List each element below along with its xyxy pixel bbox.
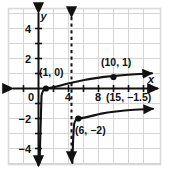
point-1-0[interactable] [43, 85, 49, 91]
point-6-neg2[interactable] [75, 115, 81, 121]
annotation-point-6-neg2: (6, −2) [75, 124, 106, 136]
point-10-1[interactable] [110, 74, 116, 80]
y-tick-label-2: 2 [25, 53, 31, 65]
coordinate-plane-svg: 4 2 0 −2 −4 4 8 y x (1, 0) (10, 1) (15, … [0, 0, 169, 173]
annotation-point-15-neg1-5: (15, −1.5) [106, 91, 151, 103]
y-tick-label-4: 4 [25, 23, 32, 35]
y-axis-label: y [40, 10, 48, 22]
y-tick-label-0: 0 [28, 91, 34, 103]
x-tick-label-4: 4 [65, 91, 72, 103]
annotation-point-1-0: (1, 0) [39, 66, 64, 78]
y-tick-label-neg2: −2 [18, 113, 31, 125]
x-axis-label: x [147, 73, 155, 85]
graph-figure: 4 2 0 −2 −4 4 8 y x (1, 0) (10, 1) (15, … [0, 0, 169, 173]
y-tick-label-neg4: −4 [18, 143, 31, 155]
plot-frame [9, 9, 161, 165]
annotation-point-10-1: (10, 1) [101, 56, 131, 68]
x-tick-label-8: 8 [95, 91, 101, 103]
